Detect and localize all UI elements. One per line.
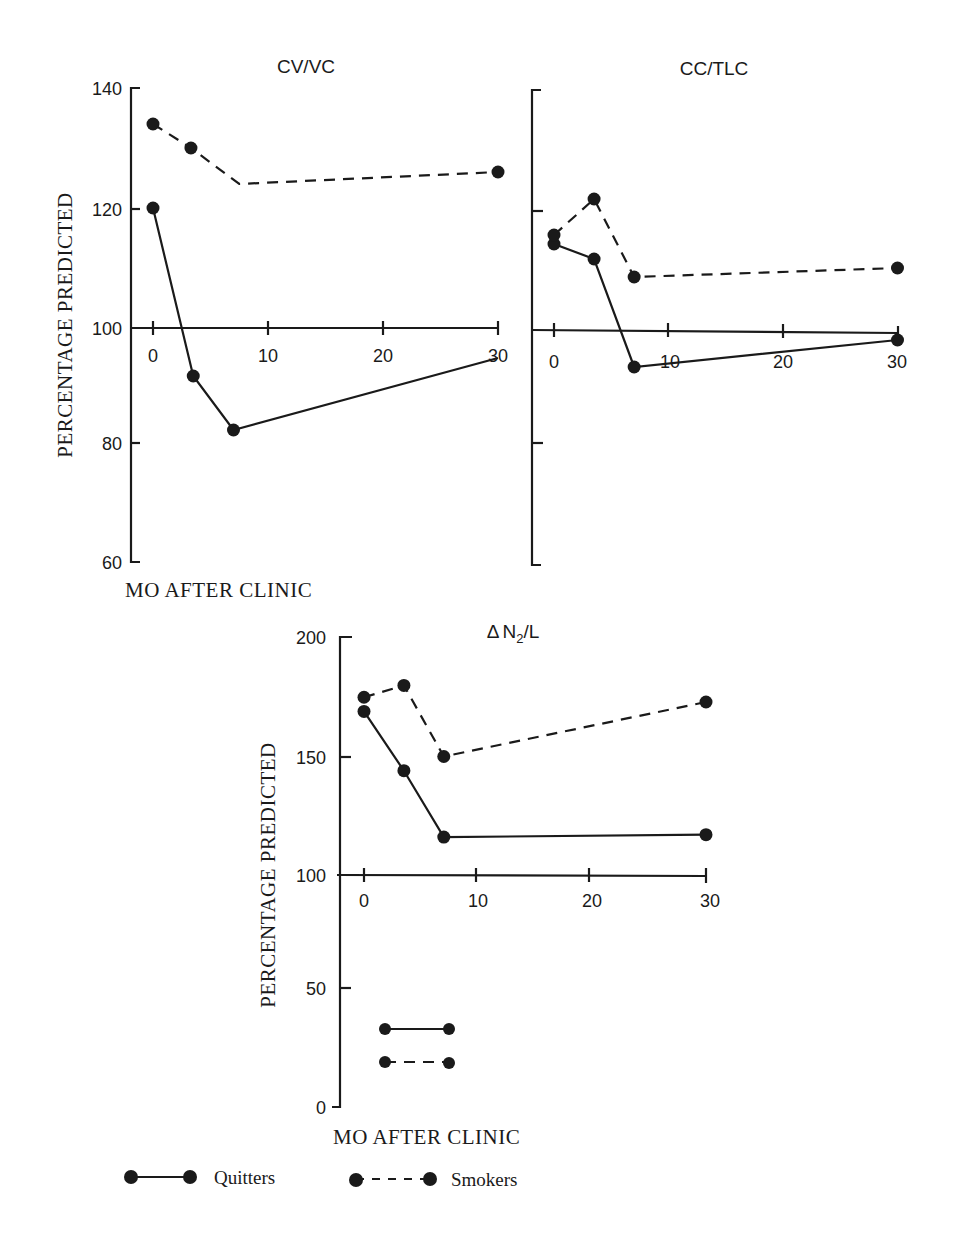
- data-point-marker: [358, 705, 371, 718]
- marker-icon: [349, 1173, 363, 1187]
- svg-text:140: 140: [92, 79, 122, 99]
- marker-icon: [124, 1170, 138, 1184]
- data-point-marker: [358, 691, 371, 704]
- svg-text:20: 20: [373, 346, 393, 366]
- series-quitters: [358, 705, 713, 844]
- series-smokers: [358, 679, 713, 763]
- data-point-marker: [628, 271, 641, 284]
- series-quitters: [147, 202, 499, 437]
- svg-text:30: 30: [700, 891, 720, 911]
- y-tick-labels: 140 120 100 80 60: [92, 79, 122, 573]
- inline-key: [379, 1023, 455, 1069]
- data-point-marker: [147, 118, 160, 131]
- svg-text:120: 120: [92, 200, 122, 220]
- svg-text:20: 20: [582, 891, 602, 911]
- smokers-line: [364, 685, 706, 756]
- y-axis-cv-vc: [131, 88, 140, 562]
- data-point-marker: [891, 334, 904, 347]
- svg-text:100: 100: [92, 319, 122, 339]
- smokers-line: [554, 199, 898, 277]
- svg-text:80: 80: [102, 434, 122, 454]
- x-tick-labels: 0 10 20 30: [549, 352, 907, 372]
- smokers-line: [153, 124, 498, 184]
- quitters-line: [153, 208, 498, 430]
- data-point-marker: [397, 764, 410, 777]
- x-axis-dn2-l: [337, 875, 706, 876]
- svg-text:10: 10: [258, 346, 278, 366]
- chart-title-dn2-l: ΔN2/L: [487, 621, 540, 646]
- data-point-marker: [628, 361, 641, 374]
- svg-text:0: 0: [359, 891, 369, 911]
- svg-text:Quitters: Quitters: [214, 1167, 275, 1188]
- x-tick-labels: 0 10 20 30: [148, 346, 508, 366]
- data-point-marker: [397, 679, 410, 692]
- data-point-marker: [700, 695, 713, 708]
- y-axis-label: PERCENTAGE PREDICTED: [256, 742, 280, 1008]
- x-axis-label: MO AFTER CLINIC: [125, 578, 312, 602]
- chart-cc-tlc: CC/TLC 0 10 20 30: [532, 58, 907, 565]
- svg-text:60: 60: [102, 553, 122, 573]
- data-point-marker: [891, 262, 904, 275]
- legend-item-quitters: Quitters: [124, 1167, 275, 1188]
- svg-text:30: 30: [488, 346, 508, 366]
- chart-dn2-l: ΔN2/L 200 150 100 50 0 0 10 20 30 PERCEN…: [256, 621, 720, 1149]
- x-axis-cc-tlc: [532, 330, 898, 333]
- data-point-marker: [588, 253, 601, 266]
- y-axis-cc-tlc: [532, 90, 541, 565]
- y-axis-dn2-l: [332, 637, 352, 1107]
- data-point-marker: [437, 750, 450, 763]
- svg-text:Smokers: Smokers: [451, 1169, 518, 1190]
- svg-text:0: 0: [148, 346, 158, 366]
- marker-icon: [423, 1172, 437, 1186]
- series-smokers: [147, 118, 505, 185]
- data-point-marker: [492, 166, 505, 179]
- svg-text:200: 200: [296, 628, 326, 648]
- x-axis-label: MO AFTER CLINIC: [333, 1125, 520, 1149]
- series-quitters: [548, 238, 905, 374]
- svg-text:30: 30: [887, 352, 907, 372]
- y-axis-label: PERCENTAGE PREDICTED: [53, 192, 77, 458]
- svg-text:10: 10: [468, 891, 488, 911]
- data-point-marker: [187, 370, 200, 383]
- svg-text:0: 0: [316, 1098, 326, 1118]
- quitters-line: [554, 244, 898, 367]
- data-point-marker: [700, 828, 713, 841]
- series-smokers: [548, 193, 905, 284]
- legend-item-smokers: Smokers: [349, 1169, 518, 1190]
- x-tick-labels: 0 10 20 30: [359, 891, 720, 911]
- data-point-marker: [548, 229, 561, 242]
- quitters-line: [364, 711, 706, 837]
- svg-text:150: 150: [296, 748, 326, 768]
- chart-cv-vc: CV/VC 140 120 100 80 60 0 10 20 30 PERCE…: [53, 56, 508, 602]
- data-point-marker: [588, 193, 601, 206]
- svg-text:0: 0: [549, 352, 559, 372]
- legend: Quitters Smokers: [124, 1167, 518, 1190]
- data-point-marker: [147, 202, 160, 215]
- data-point-marker: [184, 142, 197, 155]
- chart-title-cc-tlc: CC/TLC: [680, 58, 749, 79]
- svg-text:50: 50: [306, 979, 326, 999]
- chart-title-cv-vc: CV/VC: [277, 56, 335, 77]
- data-point-marker: [437, 831, 450, 844]
- svg-text:20: 20: [773, 352, 793, 372]
- marker-icon: [183, 1170, 197, 1184]
- y-tick-labels: 200 150 100 50 0: [296, 628, 326, 1118]
- svg-text:100: 100: [296, 866, 326, 886]
- data-point-marker: [227, 424, 240, 437]
- figure: CV/VC 140 120 100 80 60 0 10 20 30 PERCE…: [0, 0, 962, 1256]
